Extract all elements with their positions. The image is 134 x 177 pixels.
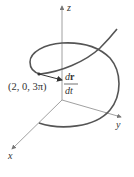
y-axis-label: y	[115, 119, 121, 130]
helix-curve-upper	[40, 29, 117, 74]
x-axis-label: x	[7, 150, 13, 161]
helix-diagram: z y x (2, 0, 3π) dr dt	[0, 0, 134, 177]
tangent-numerator: dr	[65, 71, 75, 82]
z-axis-label: z	[66, 2, 71, 13]
y-axis	[62, 100, 121, 117]
tangent-denominator: dt	[65, 85, 73, 96]
tangent-vector	[39, 74, 62, 80]
x-axis	[12, 100, 62, 149]
point-label: (2, 0, 3π)	[8, 81, 47, 93]
